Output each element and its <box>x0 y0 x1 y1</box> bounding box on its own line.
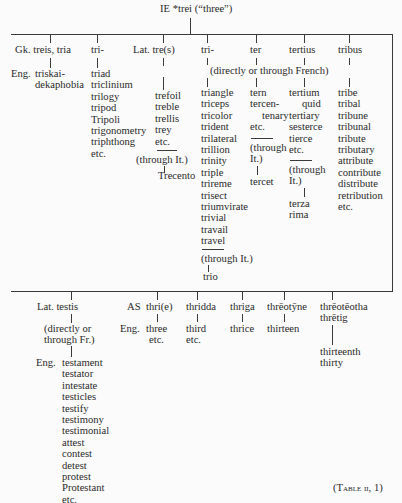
word: tricolor <box>201 110 248 121</box>
threotyne-source: thrēotȳne <box>267 301 307 312</box>
threotyne-derivative: thirteen <box>267 323 299 334</box>
word: thirty <box>320 357 361 368</box>
via-line: through Fr.) <box>44 334 95 345</box>
word: trireme <box>201 178 248 189</box>
word: tributary <box>338 144 383 155</box>
divider <box>251 138 273 139</box>
testis-derivatives: testament testator intestate testicles t… <box>62 357 109 503</box>
latin-tri-source: tri- <box>201 44 214 55</box>
word: trivial <box>201 212 248 223</box>
word: protest <box>62 471 109 482</box>
word: trellis <box>155 113 181 124</box>
word: triangle <box>201 87 248 98</box>
connector <box>97 34 98 43</box>
word: testimonial <box>62 425 109 436</box>
root-connector <box>190 18 191 34</box>
connector <box>242 291 243 300</box>
connector <box>284 291 285 300</box>
word: triclinium <box>91 79 146 90</box>
connector <box>50 34 51 43</box>
tertius-derivatives: tertium quid tertiary sesterce tierce et… <box>289 87 323 155</box>
lower-branch-line <box>11 291 393 292</box>
word: triceps <box>201 98 248 109</box>
word: trey <box>155 124 181 135</box>
latin-tres-derivatives: trefoil treble trellis trey etc. <box>155 90 181 147</box>
ter-via: (through It.) <box>250 142 286 165</box>
connector <box>242 314 243 322</box>
via-line: It.) <box>289 175 325 186</box>
word: attest <box>62 437 109 448</box>
word: sesterce <box>289 121 323 132</box>
tribus-source: tribus <box>338 44 362 55</box>
connector <box>256 34 257 43</box>
word: trigonometry <box>91 125 146 136</box>
greek-tri-derivatives: triad triclinium trilogy tripod Tripoli … <box>91 68 146 159</box>
word: tribunal <box>338 121 383 132</box>
via-line: (directly or <box>44 323 95 334</box>
french-note: (directly or through French) <box>210 65 329 76</box>
word: etc. <box>289 144 323 155</box>
thriga-source: thriga <box>230 301 255 312</box>
word: etc. <box>338 201 383 212</box>
word: triphthong <box>91 136 146 147</box>
threoteotha-source: thrēotēotha thrētig <box>320 301 368 324</box>
connector <box>97 58 98 68</box>
word: contribute <box>338 167 383 178</box>
connector <box>349 58 350 65</box>
word: trinity <box>201 155 248 166</box>
connector <box>304 78 305 87</box>
word: tertium <box>289 87 323 98</box>
via-line: (through <box>289 164 325 175</box>
word: etc. <box>155 136 181 147</box>
latin-tres-via-word: Trecento <box>158 170 195 181</box>
word: terza <box>289 198 310 209</box>
upper-branch-line <box>11 34 393 35</box>
word: trilogy <box>91 91 146 102</box>
word: triumvirate <box>201 201 248 212</box>
word: tenary <box>250 110 288 121</box>
tribus-derivatives: tribe tribal tribune tribunal tribute tr… <box>338 87 383 212</box>
word: tierce <box>289 133 323 144</box>
latin-tres-via: (through It.) <box>136 154 188 165</box>
latin-tri-derivatives: triangle triceps tricolor trident trilat… <box>201 87 248 246</box>
word: etc. <box>186 334 206 345</box>
connector <box>197 291 198 300</box>
latin-tres-source: Lat. tre(s) <box>133 44 175 55</box>
eng-label: Eng. <box>11 68 31 79</box>
tertius-via-derivatives: terza rima <box>289 198 310 221</box>
word: etc. <box>250 121 288 132</box>
caption-number: ii, 1) <box>361 482 382 493</box>
connector <box>256 78 257 87</box>
connector <box>332 325 333 345</box>
divider <box>157 150 177 151</box>
word: tribune <box>338 110 383 121</box>
word: testicles <box>62 391 109 402</box>
thridda-derivatives: third etc. <box>186 323 206 346</box>
connector <box>71 314 72 323</box>
connector <box>157 291 158 300</box>
via-line: It.) <box>250 153 286 164</box>
thridda-source: thridda <box>186 301 216 312</box>
word: testament <box>62 357 109 368</box>
word: travail <box>201 224 248 235</box>
table-caption: (Table ii, 1) <box>333 482 383 493</box>
via-line: (through <box>250 142 286 153</box>
connector <box>304 188 305 197</box>
word: trilateral <box>201 133 248 144</box>
word: third <box>186 323 206 334</box>
connector <box>304 34 305 43</box>
word: testify <box>62 403 109 414</box>
connector <box>163 34 164 43</box>
word: intestate <box>62 380 109 391</box>
thriga-derivative: thrice <box>230 323 254 334</box>
word: etc. <box>62 494 109 503</box>
word: detest <box>62 460 109 471</box>
word: tribal <box>338 98 383 109</box>
connector <box>157 314 158 322</box>
threoteotha-derivatives: thirteenth thirty <box>320 346 361 369</box>
ter-derivatives: tern tercen- tenary etc. <box>250 87 288 133</box>
as-thrie-source: thri(e) <box>146 301 172 312</box>
as-thrie-derivatives: three etc. <box>146 323 167 346</box>
testis-via: (directly or through Fr.) <box>44 323 95 346</box>
word: trident <box>201 121 248 132</box>
